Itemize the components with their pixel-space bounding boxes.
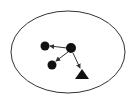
node-triangle <box>75 69 89 79</box>
diagram-canvas <box>0 0 136 101</box>
edge-center-to-left <box>50 46 67 48</box>
edge-center-to-triangle <box>73 53 80 68</box>
node-lower-left <box>48 61 57 70</box>
edge-center-to-lower-left <box>56 52 68 61</box>
node-left <box>41 42 50 51</box>
node-center <box>66 43 76 53</box>
